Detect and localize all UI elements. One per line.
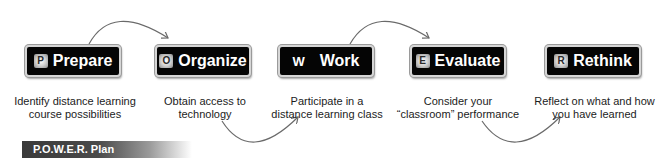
step-label: Work <box>320 52 360 70</box>
arrow-prepare-to-organize <box>89 21 168 44</box>
plan-title-bar: P.O.W.E.R. Plan <box>22 141 192 158</box>
letter-badge-e: E <box>416 54 430 68</box>
flow-arrows <box>0 0 667 164</box>
caption-prepare: Identify distance learning course possib… <box>5 95 145 121</box>
caption-work: Participate in a distance learning class <box>262 95 392 121</box>
caption-evaluate: Consider your “classroom” performance <box>393 95 523 121</box>
step-label: Rethink <box>573 52 632 70</box>
step-label: Prepare <box>53 52 113 70</box>
step-rethink: R Rethink <box>545 45 641 77</box>
caption-rethink: Reflect on what and how you have learned <box>527 95 662 121</box>
arrow-work-to-evaluate <box>350 21 429 44</box>
step-organize: O Organize <box>155 45 251 77</box>
caption-organize: Obtain access to technology <box>145 95 265 121</box>
letter-badge-o: O <box>159 54 173 68</box>
step-label: Evaluate <box>435 52 501 70</box>
step-prepare: P Prepare <box>25 45 121 77</box>
step-evaluate: E Evaluate <box>410 45 506 77</box>
letter-badge-w: W <box>293 54 305 68</box>
letter-badge-r: R <box>554 54 568 68</box>
step-work: W Work <box>278 45 374 77</box>
letter-badge-p: P <box>34 54 48 68</box>
step-label: Organize <box>178 52 246 70</box>
